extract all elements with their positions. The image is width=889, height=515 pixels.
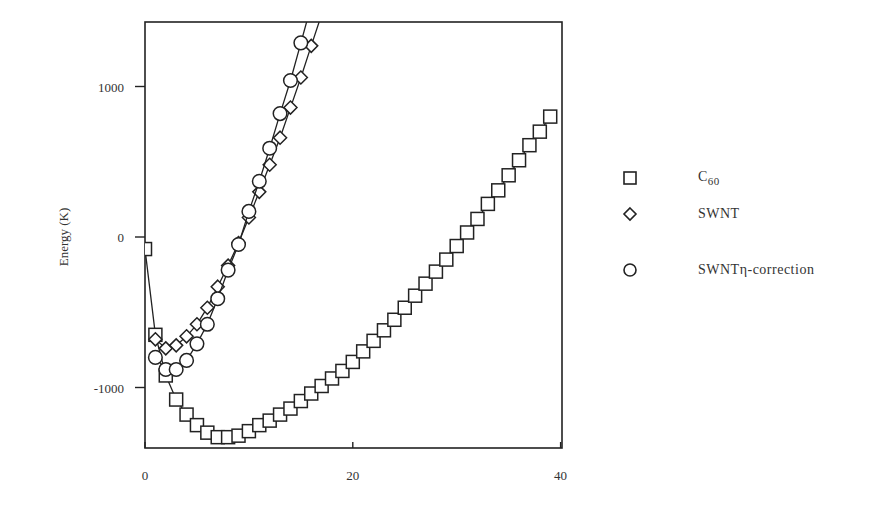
data-point-square [513, 154, 526, 167]
axis-tick-labels: 0204010000-1000 [94, 80, 567, 484]
data-point-square [533, 125, 546, 138]
square-icon [620, 168, 640, 188]
data-point-square [398, 301, 411, 314]
data-point-square [429, 265, 442, 278]
legend-item-c60: C60 [620, 168, 640, 188]
x-tick-label: 40 [554, 468, 567, 483]
data-point-circle [201, 317, 215, 331]
data-point-square [139, 243, 152, 256]
y-tick-label: 0 [118, 230, 125, 245]
data-point-square [492, 184, 505, 197]
data-point-square [388, 313, 401, 326]
x-tick-label: 0 [142, 468, 149, 483]
data-point-circle [242, 205, 256, 219]
data-point-circle [284, 74, 298, 88]
data-point-circle [221, 263, 235, 277]
series-circle [149, 22, 308, 376]
x-tick-label: 20 [346, 468, 359, 483]
energy-chart: 0204010000-1000 Energy (K) [0, 0, 889, 515]
data-point-square [471, 212, 484, 225]
y-tick-label: 1000 [98, 80, 124, 95]
data-point-circle [232, 238, 246, 252]
circle-icon [620, 260, 640, 280]
data-point-circle [263, 141, 277, 155]
legend-item-swnt: SWNT [620, 204, 640, 224]
series-layer [139, 22, 557, 444]
data-point-square [544, 110, 557, 123]
y-tick-label: -1000 [94, 381, 124, 396]
legend-item-swnt-eta-correction: SWNTη-correction [620, 260, 640, 280]
data-point-square [409, 289, 422, 302]
series-square [139, 110, 557, 444]
data-point-square [170, 393, 183, 406]
data-point-circle [190, 337, 204, 351]
series-diamond [149, 22, 319, 355]
data-point-square [461, 226, 474, 239]
legend-label: SWNT [698, 206, 740, 222]
data-point-diamond [274, 131, 287, 144]
data-point-square [440, 253, 453, 266]
data-point-circle [149, 351, 163, 365]
y-axis-label: Energy (K) [56, 208, 71, 267]
data-point-square [523, 139, 536, 152]
legend-label: SWNTη-correction [698, 262, 814, 278]
legend-label: C60 [698, 169, 720, 187]
data-point-square [481, 197, 494, 210]
data-point-circle [180, 354, 194, 368]
data-point-circle [211, 292, 225, 306]
data-point-square [450, 240, 463, 253]
data-point-circle [294, 36, 308, 50]
data-point-square [502, 169, 515, 182]
data-point-circle [252, 175, 266, 189]
diamond-icon [620, 204, 640, 224]
data-point-square [419, 277, 432, 290]
data-point-circle [273, 107, 287, 121]
plot-frame [145, 22, 562, 448]
axis-ticks [135, 87, 561, 449]
